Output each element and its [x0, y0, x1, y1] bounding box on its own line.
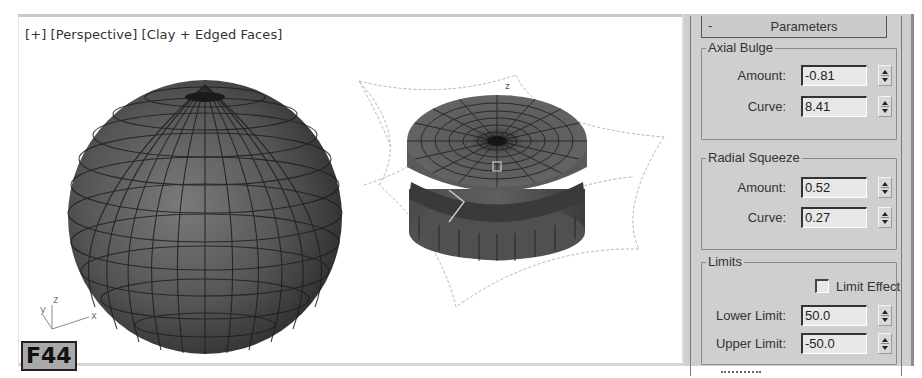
- parameters-rollout: - Parameters Axial Bulge Amount: -0.81 C…: [690, 16, 902, 376]
- viewport-scene: z z y x: [19, 17, 683, 369]
- group-radial-squeeze: Radial Squeeze Amount: 0.52 Curve: 0.27: [701, 158, 897, 250]
- lower-limit-row: Lower Limit: 50.0: [702, 305, 896, 327]
- spin-down-icon[interactable]: [882, 190, 888, 194]
- radial-amount-spinner[interactable]: [878, 177, 892, 198]
- lower-limit-spinner[interactable]: [878, 305, 892, 326]
- spin-up-icon[interactable]: [882, 70, 888, 74]
- field-label: Amount:: [738, 68, 786, 83]
- spin-up-icon[interactable]: [882, 101, 888, 105]
- spin-down-icon[interactable]: [882, 318, 888, 322]
- svg-text:z: z: [505, 81, 510, 91]
- sphere-object[interactable]: [68, 80, 342, 354]
- axis-tripod-icon: [43, 305, 89, 329]
- axial-curve-row: Curve: 8.41: [702, 96, 896, 118]
- radial-curve-spinner[interactable]: [878, 207, 892, 228]
- limit-effect-label[interactable]: Limit Effect: [836, 279, 900, 294]
- radial-curve-row: Curve: 0.27: [702, 207, 896, 229]
- field-label: Curve:: [748, 99, 786, 114]
- field-label: Upper Limit:: [716, 336, 786, 351]
- spin-down-icon[interactable]: [882, 220, 888, 224]
- perspective-viewport[interactable]: [+] [Perspective] [Clay + Edged Faces]: [18, 14, 682, 366]
- radial-amount-row: Amount: 0.52: [702, 177, 896, 199]
- axial-amount-input[interactable]: -0.81: [801, 65, 867, 86]
- command-panel: - Parameters Axial Bulge Amount: -0.81 C…: [682, 14, 914, 366]
- axial-amount-spinner[interactable]: [878, 65, 892, 86]
- figure-badge: F44: [21, 341, 77, 371]
- field-label: Curve:: [748, 210, 786, 225]
- group-title: Radial Squeeze: [706, 150, 802, 165]
- radial-amount-input[interactable]: 0.52: [801, 177, 867, 198]
- axis-z-label: z: [53, 294, 58, 305]
- next-group-stub: [721, 371, 761, 375]
- spin-down-icon[interactable]: [882, 346, 888, 350]
- upper-limit-input[interactable]: -50.0: [801, 333, 867, 354]
- limit-effect-row: Limit Effect: [702, 277, 896, 299]
- field-label: Amount:: [738, 180, 786, 195]
- axis-y-label: y: [40, 304, 46, 315]
- axis-x-label: x: [91, 310, 97, 321]
- field-label: Lower Limit:: [716, 308, 786, 323]
- upper-limit-row: Upper Limit: -50.0: [702, 333, 896, 355]
- group-title: Axial Bulge: [706, 40, 775, 55]
- radial-curve-input[interactable]: 0.27: [801, 207, 867, 228]
- axial-curve-spinner[interactable]: [878, 96, 892, 117]
- spin-up-icon[interactable]: [882, 338, 888, 342]
- cylinder-object[interactable]: z: [407, 81, 587, 261]
- screenshot-root: [+] [Perspective] [Clay + Edged Faces]: [0, 0, 922, 378]
- spin-down-icon[interactable]: [882, 109, 888, 113]
- axial-curve-input[interactable]: 8.41: [801, 96, 867, 117]
- spin-down-icon[interactable]: [882, 78, 888, 82]
- spin-up-icon[interactable]: [882, 310, 888, 314]
- spin-up-icon[interactable]: [882, 212, 888, 216]
- group-limits: Limits Limit Effect Lower Limit: 50.0 Up…: [701, 262, 897, 365]
- axial-amount-row: Amount: -0.81: [702, 65, 896, 87]
- spin-up-icon[interactable]: [882, 182, 888, 186]
- rollout-header[interactable]: - Parameters: [701, 16, 887, 38]
- rollout-title: Parameters: [702, 19, 886, 34]
- group-axial-bulge: Axial Bulge Amount: -0.81 Curve: 8.41: [701, 48, 897, 140]
- upper-limit-spinner[interactable]: [878, 333, 892, 354]
- lower-limit-input[interactable]: 50.0: [801, 305, 867, 326]
- limit-effect-checkbox[interactable]: [815, 279, 829, 293]
- group-title: Limits: [706, 254, 744, 269]
